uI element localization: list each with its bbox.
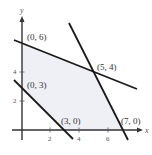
x-tick-label-6: 6 <box>106 135 110 143</box>
vertex-label-0-3: (0, 3) <box>27 80 47 90</box>
y-tick-label-4: 4 <box>13 68 17 76</box>
x-tick-label-4: 4 <box>77 135 81 143</box>
y-tick-label-2: 2 <box>13 97 17 105</box>
vertex-label-5-4: (5, 4) <box>97 62 117 72</box>
feasible-region-chart: 2 4 6 2 4 x y (0, 6) (5, 4) (0, 3) (3, 0… <box>0 0 152 155</box>
vertex-label-3-0: (3, 0) <box>61 116 81 126</box>
x-axis-label: x <box>144 126 149 135</box>
vertex-label-7-0: (7, 0) <box>121 116 141 126</box>
x-axis-arrow-icon <box>137 128 143 133</box>
y-axis-arrow-icon <box>20 16 25 22</box>
x-tick-label-2: 2 <box>48 135 52 143</box>
y-axis-label: y <box>19 6 24 15</box>
vertex-label-0-6: (0, 6) <box>27 32 47 42</box>
